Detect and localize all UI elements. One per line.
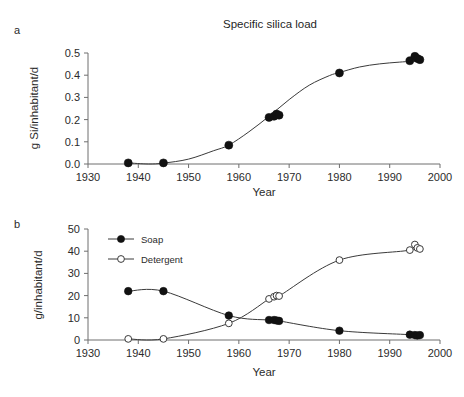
y-tick-label: 40 (68, 245, 80, 257)
x-tick-label: 1980 (327, 347, 351, 359)
panel-b-x-axis: 19301940195019601970198019902000 Year (76, 340, 452, 378)
data-point-silica (124, 159, 132, 167)
legend-label-soap: Soap (141, 234, 163, 245)
x-tick-label: 1930 (76, 347, 100, 359)
data-point-silica (225, 141, 233, 149)
x-tick-label: 1940 (126, 171, 150, 183)
data-point-detergent (225, 320, 232, 327)
x-axis-tick-labels: 19301940195019601970198019902000 (76, 347, 452, 359)
y-tick-label: 0.3 (65, 91, 80, 103)
silica-data-points (124, 52, 424, 167)
data-point-silica (159, 159, 167, 167)
panel-a-x-axis: 19301940195019601970198019902000 Year (76, 164, 452, 198)
x-axis-ticks (88, 340, 440, 344)
y-tick-label: 0.0 (65, 158, 80, 170)
data-point-soap (160, 287, 168, 295)
y-tick-label: 20 (68, 290, 80, 302)
legend-marker-detergent-icon (118, 256, 125, 263)
x-axis-ticks (88, 164, 440, 168)
y-tick-label: 0.4 (65, 69, 80, 81)
y-axis-ticks (84, 229, 88, 340)
y-axis-tick-labels: 01020304050 (68, 223, 80, 346)
y-axis-tick-labels: 0.00.10.20.30.40.5 (65, 47, 80, 170)
x-tick-label: 1960 (227, 171, 251, 183)
data-point-soap (225, 312, 233, 320)
x-tick-label: 1970 (277, 347, 301, 359)
panel-b-legend: Soap Detergent (108, 234, 183, 265)
data-point-detergent (336, 257, 343, 264)
data-point-soap (416, 331, 424, 339)
legend-marker-soap-icon (117, 235, 124, 242)
y-tick-label: 10 (68, 312, 80, 324)
x-tick-label: 1990 (377, 171, 401, 183)
y-axis-ticks (84, 53, 88, 164)
y-tick-label: 0 (74, 334, 80, 346)
y-tick-label: 30 (68, 267, 80, 279)
x-tick-label: 2000 (428, 171, 452, 183)
x-tick-label: 1930 (76, 171, 100, 183)
data-point-soap (336, 327, 344, 335)
x-tick-label: 1950 (176, 347, 200, 359)
data-point-detergent (276, 293, 283, 300)
y-tick-label: 0.2 (65, 114, 80, 126)
panel-a-plot: 0.00.10.20.30.40.5 g Si/inhabitant/d 193… (0, 0, 464, 200)
x-tick-label: 1990 (377, 347, 401, 359)
y-tick-label: 0.5 (65, 47, 80, 59)
panel-a-y-axis: 0.00.10.20.30.40.5 g Si/inhabitant/d (28, 47, 88, 170)
y-axis-title: g Si/inhabitant/d (28, 67, 40, 149)
data-point-detergent (416, 246, 423, 253)
y-tick-label: 50 (68, 223, 80, 235)
x-axis-tick-labels: 19301940195019601970198019902000 (76, 171, 452, 183)
x-tick-label: 1970 (277, 171, 301, 183)
y-tick-label: 0.1 (65, 136, 80, 148)
x-tick-label: 1980 (327, 171, 351, 183)
x-tick-label: 1950 (176, 171, 200, 183)
x-tick-label: 1940 (126, 347, 150, 359)
x-tick-label: 2000 (428, 347, 452, 359)
figure-container: a Specific silica load b 0.00.10.20.30.4… (0, 0, 464, 397)
data-point-detergent (160, 335, 167, 342)
data-point-silica (416, 56, 424, 64)
data-point-silica (335, 69, 343, 77)
panel-b-plot: 01020304050 g/inhabitant/d 1930194019501… (0, 197, 464, 397)
data-point-detergent (406, 247, 413, 254)
x-axis-title: Year (252, 366, 275, 378)
data-point-detergent (125, 335, 132, 342)
data-point-silica (275, 111, 283, 119)
x-tick-label: 1960 (227, 347, 251, 359)
panel-b-y-axis: 01020304050 g/inhabitant/d (32, 223, 88, 346)
y-axis-title: g/inhabitant/d (32, 250, 44, 319)
data-point-soap (124, 287, 132, 295)
data-point-soap (275, 317, 283, 325)
legend-label-detergent: Detergent (141, 254, 183, 265)
